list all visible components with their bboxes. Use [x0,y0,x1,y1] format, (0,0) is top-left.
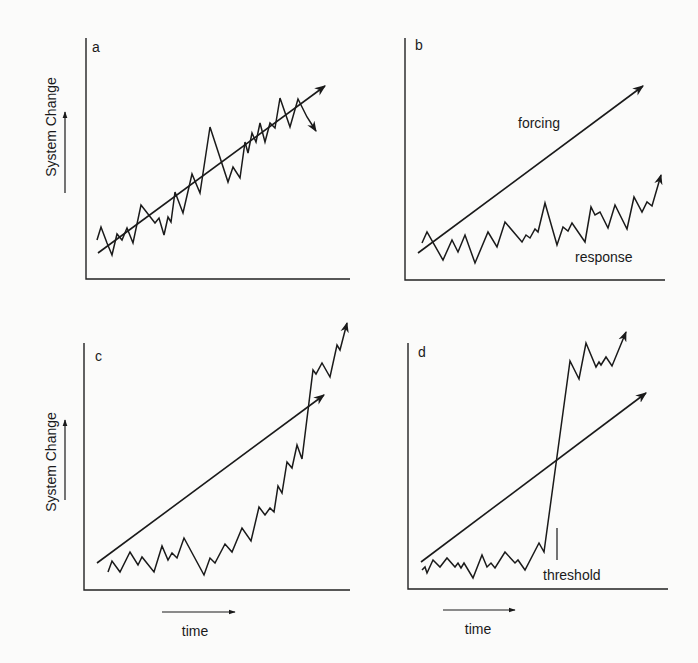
panel-b-axes [405,38,665,280]
panel-c-response-line [108,323,347,575]
panel-a-response-line [97,98,316,255]
panel-c-label: c [95,348,102,364]
y-axis-label-top: System Change [43,77,65,193]
figure-canvas: a b forcing response c d thresho [0,0,698,663]
panel-c-forcing-arrow [97,395,324,563]
panel-a-forcing-arrow [98,86,325,253]
x-axis-label-text: time [465,621,492,637]
figure-four-panel-system-response: a b forcing response c d thresho [0,0,698,663]
x-axis-label-right: time [443,610,515,637]
panel-b-response-label: response [575,249,633,265]
panel-d-axes [408,343,668,589]
y-axis-label-text: System Change [43,412,59,512]
panel-a-label: a [92,39,100,55]
panel-c: c [84,323,350,590]
panel-d-forcing-arrow [421,393,646,562]
panel-d: d threshold [408,332,668,589]
x-axis-label-text: time [182,623,209,639]
panel-c-axes [84,343,350,590]
y-axis-label-bottom: System Change [43,412,65,512]
x-axis-label-left: time [162,612,235,639]
panel-a: a [86,38,350,279]
panel-b: b forcing response [405,37,665,280]
panel-a-axes [86,38,350,279]
panel-b-label: b [415,37,423,53]
panel-b-forcing-label: forcing [518,115,560,131]
panel-b-forcing-arrow [418,86,643,253]
panel-d-threshold-label: threshold [543,567,601,583]
panel-d-label: d [418,344,426,360]
y-axis-label-text: System Change [43,77,59,177]
panel-d-response-line [422,332,626,578]
